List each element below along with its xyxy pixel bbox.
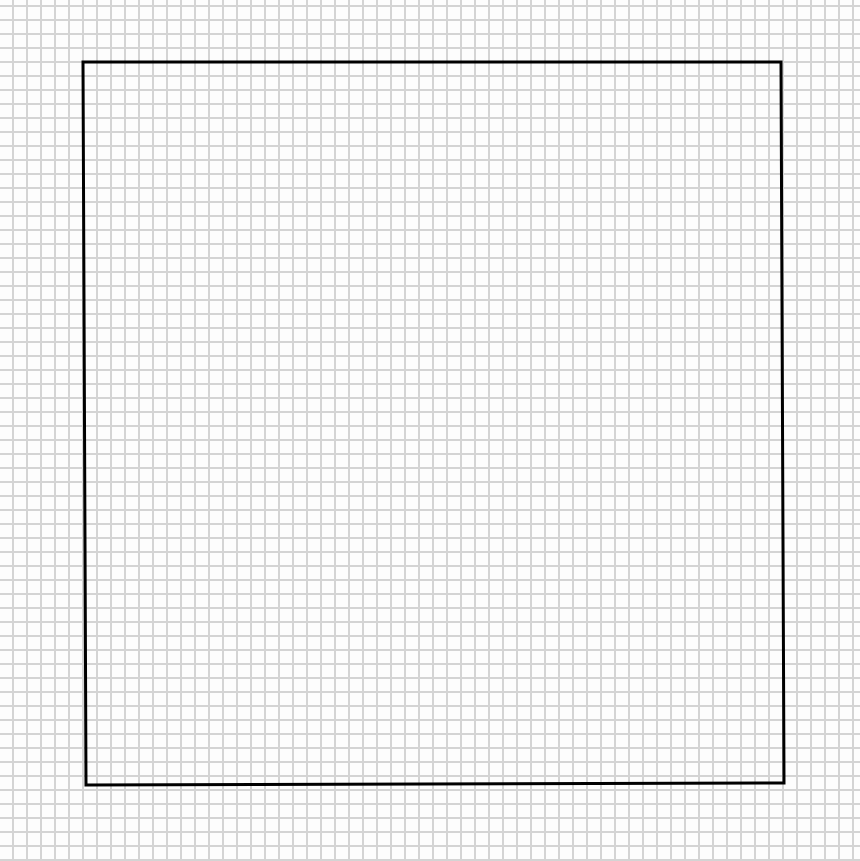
square-shape — [83, 62, 784, 785]
square-outline-drawing — [0, 0, 860, 861]
